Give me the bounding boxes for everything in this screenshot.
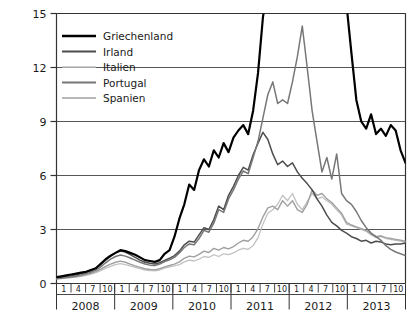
x-month-label: 7 [90, 285, 95, 294]
x-month-label: 1 [352, 285, 357, 294]
y-tick-label: 0 [40, 278, 47, 291]
x-month-label: 10 [219, 285, 229, 294]
x-month-label: 4 [192, 285, 197, 294]
x-month-label: 10 [393, 285, 403, 294]
legend-label-spanien: Spanien [103, 92, 145, 104]
y-tick-label: 12 [33, 62, 47, 75]
legend-label-griechenland: Griechenland [103, 30, 173, 42]
chart-container: 03691215 1471020081471020091471020101471… [0, 0, 414, 328]
x-month-label: 4 [308, 285, 313, 294]
x-month-label: 7 [207, 285, 212, 294]
y-tick-label: 6 [40, 170, 47, 183]
y-tick-label: 3 [40, 224, 47, 237]
x-year-label: 2009 [130, 300, 158, 313]
legend-label-portugal: Portugal [103, 77, 147, 89]
x-month-label: 1 [178, 285, 183, 294]
x-year-label: 2011 [246, 300, 274, 313]
x-month-label: 10 [160, 285, 170, 294]
x-month-label: 1 [119, 285, 124, 294]
x-month-label: 10 [335, 285, 345, 294]
x-month-label: 1 [236, 285, 241, 294]
x-month-label: 7 [381, 285, 386, 294]
x-month-label: 7 [323, 285, 328, 294]
x-month-label: 4 [250, 285, 255, 294]
x-month-label: 4 [76, 285, 81, 294]
x-year-label: 2012 [304, 300, 332, 313]
x-year-label: 2010 [188, 300, 216, 313]
x-month-label: 7 [265, 285, 270, 294]
y-tick-label: 15 [33, 8, 47, 21]
legend-label-italien: Italien [103, 61, 136, 73]
x-month-label: 1 [294, 285, 299, 294]
legend-label-irland: Irland [103, 46, 133, 58]
x-month-label: 10 [102, 285, 112, 294]
x-month-label: 10 [277, 285, 287, 294]
x-year-label: 2008 [72, 300, 100, 313]
x-month-label: 4 [367, 285, 372, 294]
x-month-label: 4 [134, 285, 139, 294]
line-chart: 03691215 1471020081471020091471020101471… [0, 0, 414, 328]
x-year-label: 2013 [362, 300, 390, 313]
x-month-label: 7 [148, 285, 153, 294]
y-tick-label: 9 [40, 116, 47, 129]
x-month-label: 1 [61, 285, 66, 294]
